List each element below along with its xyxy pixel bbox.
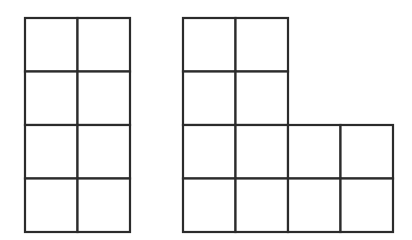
grid-square: [78, 72, 131, 126]
grid-square: [78, 125, 131, 179]
diagram-canvas: [0, 0, 412, 240]
grid-square: [25, 18, 78, 72]
grid-square: [183, 125, 236, 179]
l-shape-figure: [183, 18, 393, 232]
grid-square: [288, 179, 341, 233]
grid-square: [341, 125, 394, 179]
grid-square: [183, 72, 236, 126]
grid-square: [183, 179, 236, 233]
grid-square: [78, 18, 131, 72]
rectangle-2x4-shape: [25, 18, 130, 232]
grid-square: [236, 125, 289, 179]
grid-square: [183, 18, 236, 72]
grid-square: [341, 179, 394, 233]
grid-square: [25, 179, 78, 233]
grid-square: [288, 125, 341, 179]
grid-square: [236, 72, 289, 126]
grid-square: [25, 125, 78, 179]
grid-square: [236, 179, 289, 233]
grid-square: [78, 179, 131, 233]
grid-square: [236, 18, 289, 72]
grid-square: [25, 72, 78, 126]
